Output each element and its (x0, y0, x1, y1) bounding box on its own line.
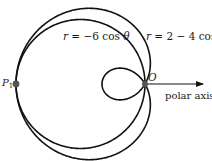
polar-diagram (0, 0, 212, 161)
circle-equation-label: r = −6 cos θ (63, 31, 130, 42)
limacon-equation-label: r = 2 − 4 cos θ (146, 31, 212, 42)
origin-label: O (148, 72, 157, 83)
point-p1-label: P1 (2, 78, 13, 90)
point-p1-marker (13, 81, 20, 88)
polar-axis-label: polar axis (165, 91, 212, 101)
